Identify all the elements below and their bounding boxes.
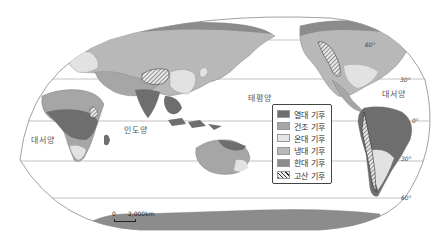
tropical-swatch-icon: [277, 110, 290, 118]
arid-swatch-icon: [277, 122, 290, 130]
legend-item-continental: 냉대 기후: [277, 145, 327, 157]
scale-distance-label: 2,000km: [128, 210, 155, 217]
lat-label-s60: 60°: [401, 194, 412, 201]
legend-item-temperate: 온대 기후: [277, 132, 327, 144]
polar-swatch-icon: [277, 159, 290, 167]
legend-item-polar: 한대 기후: [277, 157, 327, 169]
lat-label-n30: 30°: [400, 76, 411, 83]
ocean-label-atlantic-right: 대서양: [382, 88, 406, 99]
highland-hatch-swatch-icon: [277, 171, 290, 179]
legend-item-tropical: 열대 기후: [277, 108, 327, 120]
temperate-swatch-icon: [277, 134, 290, 142]
scale-zero-label: 0: [112, 210, 116, 217]
lat-label-n60: 60°: [365, 41, 376, 48]
world-map: [0, 0, 440, 241]
ocean-label-atlantic-left: 대서양: [31, 134, 55, 145]
scale-ruler-icon: [114, 219, 136, 222]
ocean-label-indian: 인도양: [124, 124, 148, 135]
legend-item-arid: 건조 기후: [277, 120, 327, 132]
ocean-label-pacific: 태평양: [248, 92, 272, 103]
legend-item-highland: 고산 기후: [277, 169, 327, 181]
climate-legend: 열대 기후 건조 기후 온대 기후 냉대 기후 한대 기후 고산 기후: [272, 104, 332, 184]
lat-label-eq: 0°: [412, 117, 419, 124]
continental-swatch-icon: [277, 147, 290, 155]
lat-label-s30: 30°: [401, 155, 412, 162]
